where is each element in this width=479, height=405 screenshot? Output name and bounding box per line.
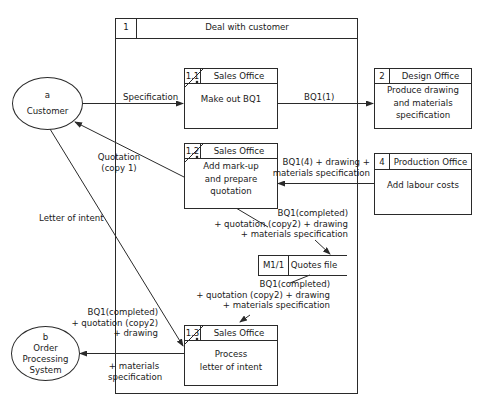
flow-label-to-order-processing: BQ1(completed) + quotation (copy2) + dra… [60, 307, 158, 339]
flow-label-from-quotes-file: BQ1(completed) + quotation (copy2) + dra… [180, 279, 330, 311]
process-description-line: quotation [185, 185, 277, 198]
process-description-line: letter of intent [185, 361, 277, 374]
entity-name-line: Order [33, 343, 57, 354]
process-2-design-office[interactable]: 2 Design Office Produce drawing and mate… [374, 68, 472, 129]
process-description-line: and prepare [185, 173, 277, 186]
flow-label-line: + quotation (copy2) + drawing [200, 219, 348, 230]
flow-label-bq1-1: BQ1(1) [304, 92, 334, 103]
process-description-line: Add labour costs [375, 179, 471, 192]
process-description-line: and materials [375, 97, 471, 110]
process-description-line: Process [185, 348, 277, 361]
flow-label-to-order-processing-cont: + materials specification [108, 361, 160, 382]
corner-marker-icon [185, 69, 203, 87]
process-4-production-office[interactable]: 4 Production Office Add labour costs [374, 153, 472, 215]
flow-label-line: (copy 1) [92, 163, 146, 174]
flow-label-letter-of-intent: Letter of intent [39, 213, 104, 224]
flow-label-bq1-4: BQ1(4) + drawing + materials specificati… [270, 157, 370, 178]
corner-marker-icon [185, 144, 203, 162]
flow-label-line: + quotation (copy2) [60, 318, 158, 329]
process-description-line: specification [375, 109, 471, 122]
flow-label-line: BQ1(completed) [200, 208, 348, 219]
flow-label-line: Quotation [92, 152, 146, 163]
flow-label-to-quotes-file: BQ1(completed) + quotation (copy2) + dra… [200, 208, 348, 240]
entity-customer[interactable]: a Customer [12, 77, 83, 130]
entity-letter: a [45, 90, 50, 101]
process-number: 2 [375, 69, 390, 83]
process-number: 4 [375, 154, 390, 169]
flow-label-line: BQ1(completed) [180, 279, 330, 290]
flow-label-specification: Specification [123, 92, 178, 103]
flow-label-line: BQ1(completed) [60, 307, 158, 318]
flow-label-quotation: Quotation (copy 1) [92, 152, 146, 173]
process-1-1[interactable]: 1.1 Sales Office Make out BQ1 [184, 68, 278, 129]
main-process-title: Deal with customer [137, 22, 357, 33]
process-1-3[interactable]: 1.3 Sales Office Process letter of inten… [184, 325, 278, 386]
process-location: Sales Office [201, 144, 277, 158]
flow-label-line: + quotation (copy2) + drawing [180, 290, 330, 301]
flow-label-line: + materials [108, 361, 160, 372]
process-description-line: Produce drawing [375, 84, 471, 97]
process-location: Production Office [390, 154, 471, 169]
process-location: Design Office [390, 69, 471, 83]
process-location: Sales Office [201, 326, 277, 340]
data-store-name: Quotes file [289, 260, 339, 271]
flow-label-line: BQ1(4) + drawing + [270, 157, 370, 168]
entity-name-line: Processing [23, 354, 69, 365]
main-process-number: 1 [116, 22, 136, 33]
flow-label-line: + drawing [60, 328, 158, 339]
flow-label-line: materials specification [270, 168, 370, 179]
flow-label-line: + materials specification [180, 300, 330, 311]
process-location: Sales Office [201, 69, 277, 83]
corner-marker-icon [185, 326, 203, 344]
flow-label-line: specification [108, 372, 160, 383]
process-1-2[interactable]: 1.2 Sales Office Add mark-up and prepare… [184, 143, 278, 209]
entity-name: Customer [27, 106, 69, 117]
process-description: Make out BQ1 [185, 93, 277, 106]
data-store-number: M1/1 [259, 260, 288, 271]
entity-letter: b [43, 332, 48, 343]
entity-name-line: System [29, 365, 61, 376]
flow-label-line: + materials specification [200, 229, 348, 240]
